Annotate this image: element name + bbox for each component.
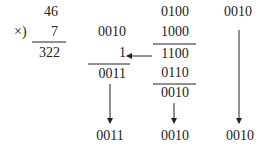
tens-carry: 1	[90, 46, 126, 60]
tens-sum: 0011	[90, 67, 126, 81]
ones-correction: 0110	[155, 66, 195, 80]
ones-top: 0100	[155, 5, 195, 19]
hundreds-top: 0010	[218, 5, 258, 19]
multiplier: 7	[36, 25, 58, 39]
tens-top: 0010	[90, 25, 126, 39]
product: 322	[30, 46, 60, 60]
multiply-operator: ×)	[14, 25, 27, 39]
hundreds-result: 0010	[220, 129, 260, 143]
ones-corrected: 0010	[155, 86, 195, 100]
multiplicand: 46	[36, 5, 58, 19]
ones-addend: 1000	[155, 25, 195, 39]
ones-sum: 1100	[155, 47, 195, 61]
diagram-lines	[0, 0, 269, 148]
ones-result: 0010	[155, 129, 195, 143]
tens-result: 0011	[90, 129, 130, 143]
